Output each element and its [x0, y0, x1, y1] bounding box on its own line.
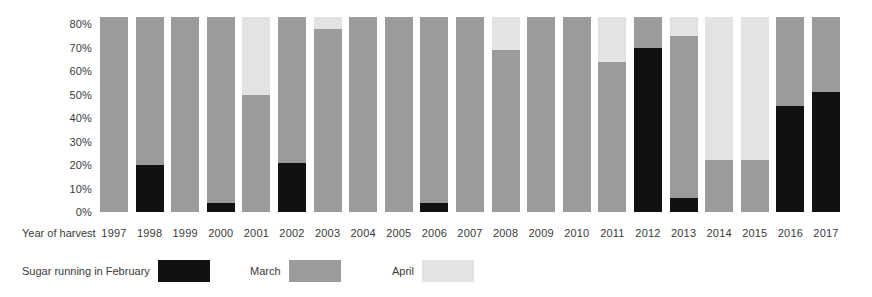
- y-axis-tick-label: 40%: [40, 113, 92, 124]
- x-axis-tick-label: 2008: [486, 227, 526, 239]
- x-axis-tick-label: 1997: [94, 227, 134, 239]
- bar-segment[interactable]: [420, 203, 448, 212]
- bar-column[interactable]: [385, 0, 413, 216]
- bar-segment[interactable]: [634, 17, 662, 48]
- bar-segment[interactable]: [136, 17, 164, 165]
- bar-segment[interactable]: [527, 17, 555, 212]
- bar-segment[interactable]: [456, 17, 484, 212]
- bar-segment[interactable]: [812, 17, 840, 92]
- x-axis-tick-label: 2017: [806, 227, 846, 239]
- bar-segment[interactable]: [278, 17, 306, 163]
- bar-column[interactable]: [100, 0, 128, 216]
- bar-stack: [812, 17, 840, 212]
- legend-item-label: April: [392, 265, 414, 277]
- bar-segment[interactable]: [136, 165, 164, 212]
- bar-segment[interactable]: [385, 17, 413, 212]
- bar-column[interactable]: [563, 0, 591, 216]
- bar-column[interactable]: [670, 0, 698, 216]
- legend-item[interactable]: April: [392, 258, 474, 284]
- bar-stack: [741, 17, 769, 212]
- bar-stack: [314, 17, 342, 212]
- y-axis-tick-label: 10%: [40, 184, 92, 195]
- bar-stack: [670, 17, 698, 212]
- bar-segment[interactable]: [314, 29, 342, 212]
- x-axis-tick-label: 1999: [165, 227, 205, 239]
- legend-color-swatch: [158, 260, 210, 282]
- bar-column[interactable]: [349, 0, 377, 216]
- bar-column[interactable]: [705, 0, 733, 216]
- bar-segment[interactable]: [776, 106, 804, 212]
- x-axis-title: Year of harvest: [22, 227, 96, 239]
- bar-segment[interactable]: [741, 160, 769, 212]
- bar-segment[interactable]: [741, 17, 769, 160]
- bar-stack: [527, 17, 555, 212]
- bar-column[interactable]: [314, 0, 342, 216]
- bar-stack: [705, 17, 733, 212]
- bar-column[interactable]: [136, 0, 164, 216]
- legend-item-label: Sugar running in February: [22, 265, 150, 277]
- bar-segment[interactable]: [278, 163, 306, 212]
- bar-segment[interactable]: [670, 198, 698, 212]
- x-axis-tick-label: 2007: [450, 227, 490, 239]
- bar-segment[interactable]: [634, 48, 662, 213]
- bar-segment[interactable]: [420, 17, 448, 203]
- bar-segment[interactable]: [598, 62, 626, 212]
- bar-segment[interactable]: [563, 17, 591, 212]
- bar-segment[interactable]: [670, 36, 698, 198]
- bar-segment[interactable]: [598, 17, 626, 62]
- legend-item-label: March: [250, 265, 281, 277]
- bar-column[interactable]: [812, 0, 840, 216]
- bar-column[interactable]: [278, 0, 306, 216]
- x-axis-tick-label: 2006: [414, 227, 454, 239]
- x-axis: Year of harvest 199719981999200020012002…: [0, 224, 872, 246]
- bar-segment[interactable]: [705, 160, 733, 212]
- y-axis: 0%10%20%30%40%50%60%70%80%: [40, 0, 96, 240]
- bar-segment[interactable]: [314, 17, 342, 29]
- bar-segment[interactable]: [242, 17, 270, 95]
- legend-item[interactable]: Sugar running in February: [22, 258, 210, 284]
- bar-column[interactable]: [741, 0, 769, 216]
- x-axis-tick-label: 2015: [735, 227, 775, 239]
- legend-item[interactable]: March: [250, 258, 341, 284]
- bar-segment[interactable]: [349, 17, 377, 212]
- x-axis-tick-label: 2014: [699, 227, 739, 239]
- y-axis-tick-label: 20%: [40, 160, 92, 171]
- bar-stack: [136, 17, 164, 212]
- bar-column[interactable]: [207, 0, 235, 216]
- x-axis-tick-label: 2011: [592, 227, 632, 239]
- bar-stack: [171, 17, 199, 212]
- bar-segment[interactable]: [207, 17, 235, 203]
- bar-stack: [420, 17, 448, 212]
- stacked-bar-chart: 0%10%20%30%40%50%60%70%80% Year of harve…: [0, 0, 872, 297]
- bar-column[interactable]: [420, 0, 448, 216]
- y-axis-tick-label: 0%: [40, 207, 92, 218]
- x-axis-tick-label: 2009: [521, 227, 561, 239]
- bar-stack: [278, 17, 306, 212]
- x-axis-tick-label: 2001: [236, 227, 276, 239]
- bar-stack: [242, 17, 270, 212]
- bar-segment[interactable]: [207, 203, 235, 212]
- bar-segment[interactable]: [492, 17, 520, 50]
- bar-segment[interactable]: [776, 17, 804, 106]
- bar-column[interactable]: [242, 0, 270, 216]
- x-axis-tick-label: 2010: [557, 227, 597, 239]
- bar-segment[interactable]: [242, 95, 270, 213]
- x-axis-tick-label: 2005: [379, 227, 419, 239]
- bar-column[interactable]: [492, 0, 520, 216]
- y-axis-tick-label: 70%: [40, 43, 92, 54]
- bar-segment[interactable]: [492, 50, 520, 212]
- bar-segment[interactable]: [705, 17, 733, 160]
- bar-column[interactable]: [598, 0, 626, 216]
- bar-segment[interactable]: [812, 92, 840, 212]
- bar-column[interactable]: [527, 0, 555, 216]
- bar-column[interactable]: [634, 0, 662, 216]
- bar-segment[interactable]: [171, 17, 199, 212]
- x-axis-tick-label: 2013: [664, 227, 704, 239]
- plot-area: [100, 0, 868, 216]
- bar-column[interactable]: [171, 0, 199, 216]
- x-axis-tick-label: 2004: [343, 227, 383, 239]
- bar-column[interactable]: [776, 0, 804, 216]
- bar-column[interactable]: [456, 0, 484, 216]
- bar-segment[interactable]: [100, 17, 128, 212]
- bar-segment[interactable]: [670, 17, 698, 36]
